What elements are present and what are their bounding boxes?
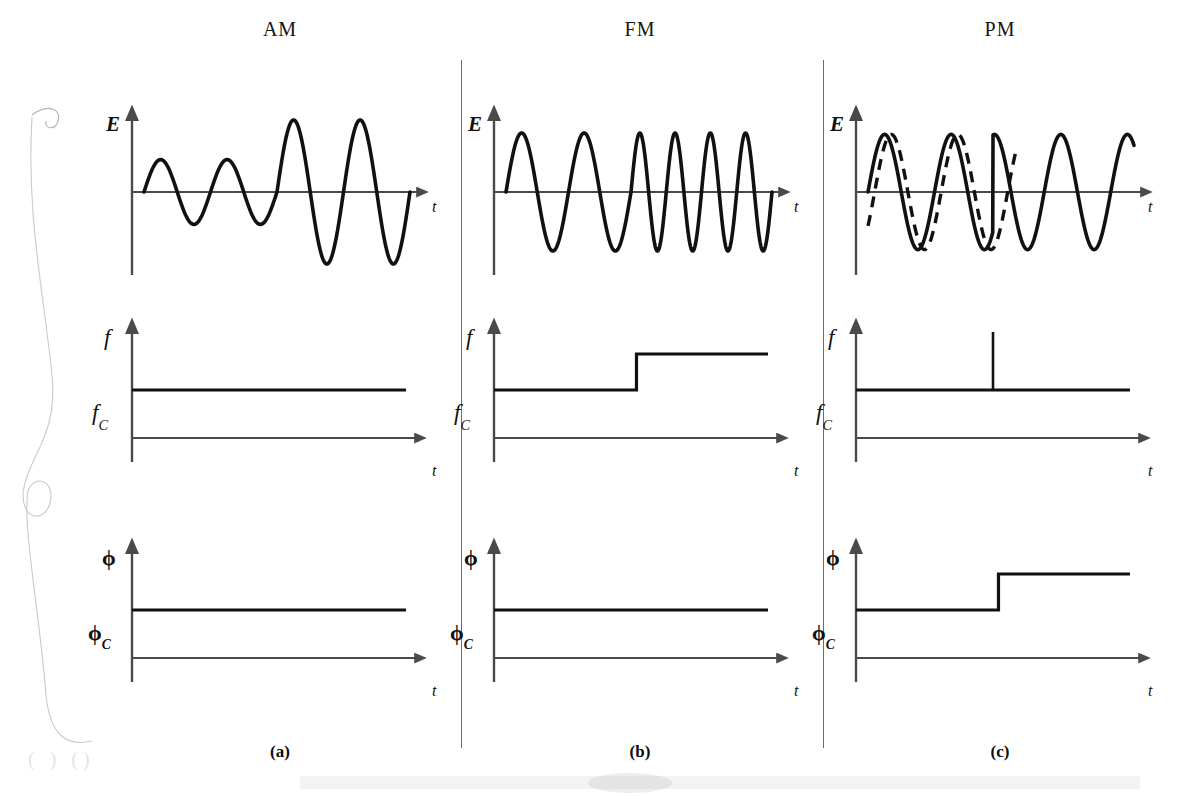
panel-am-phase <box>110 540 440 690</box>
axis-label-am-phi-t: t <box>432 682 436 700</box>
modulation-figure: ( ) () AM FM PM (a) (b) (c) E t E t E t … <box>0 0 1177 796</box>
axis-label-pm-phi: ϕ <box>826 545 840 571</box>
column-header-am: AM <box>200 18 360 41</box>
panel-am-amplitude <box>110 105 440 285</box>
panel-fm-amplitude <box>472 105 802 285</box>
axis-label-pm-E: E <box>830 112 844 137</box>
bottom-shadow-artifact <box>300 770 1140 796</box>
axis-tick-pm-fc: fC <box>816 400 832 430</box>
axis-label-fm-E-t: t <box>794 198 798 216</box>
axis-tick-fm-fc: fC <box>454 400 470 430</box>
axis-tick-fm-phic: ϕC <box>450 620 473 649</box>
axis-label-fm-phi: ϕ <box>464 545 478 571</box>
axis-tick-am-phic: ϕC <box>88 620 111 649</box>
axis-label-am-f: f <box>104 325 110 351</box>
panel-fm-frequency <box>472 320 802 470</box>
axis-tick-am-fc: fC <box>92 400 108 430</box>
panel-fm-phase <box>472 540 802 690</box>
panel-pm-frequency <box>834 320 1164 470</box>
axis-label-am-E-t: t <box>432 198 436 216</box>
axis-label-fm-phi-t: t <box>794 682 798 700</box>
axis-label-pm-f: f <box>828 325 834 351</box>
axis-label-am-E: E <box>106 112 120 137</box>
panel-pm-phase <box>834 540 1164 690</box>
axis-label-pm-E-t: t <box>1148 198 1152 216</box>
axis-label-fm-E: E <box>468 112 482 137</box>
axis-label-pm-phi-t: t <box>1148 682 1152 700</box>
scan-smudge-artifact: ( ) () <box>28 748 95 771</box>
panel-am-frequency <box>110 320 440 470</box>
axis-label-pm-f-t: t <box>1148 462 1152 480</box>
column-footer-b: (b) <box>560 742 720 762</box>
panel-pm-amplitude <box>834 105 1164 285</box>
column-header-fm: FM <box>560 18 720 41</box>
column-footer-a: (a) <box>200 742 360 762</box>
axis-label-fm-f-t: t <box>794 462 798 480</box>
axis-tick-pm-phic: ϕC <box>812 620 835 649</box>
axis-label-am-f-t: t <box>432 462 436 480</box>
axis-label-am-phi: ϕ <box>102 545 116 571</box>
axis-label-fm-f: f <box>466 325 472 351</box>
column-header-pm: PM <box>920 18 1080 41</box>
column-footer-c: (c) <box>920 742 1080 762</box>
